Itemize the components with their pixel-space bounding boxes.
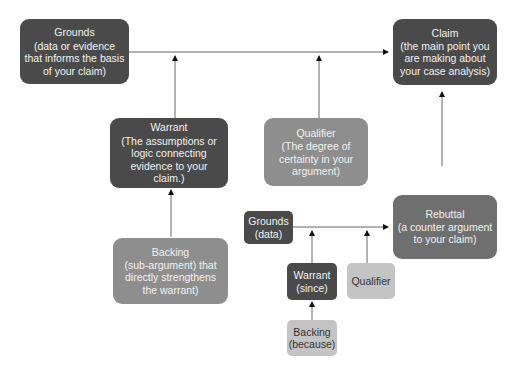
claim-node: Claim (the main point you are making abo… xyxy=(393,19,497,85)
claim-text: (the main point you are making about you… xyxy=(397,40,493,78)
sub-backing-title: Backing xyxy=(293,326,330,339)
qualifier-title: Qualifier xyxy=(296,127,335,140)
backing-node: Backing (sub-argument) that directly str… xyxy=(113,238,228,304)
rebuttal-text: (a counter argument to your claim) xyxy=(397,221,493,246)
sub-grounds-text: (data) xyxy=(255,228,282,241)
qualifier-node: Qualifier (The degree of certainty in yo… xyxy=(264,118,368,186)
rebuttal-node: Rebuttal (a counter argument to your cla… xyxy=(393,195,497,259)
sub-warrant-text: (since) xyxy=(296,282,328,295)
warrant-text: (The assumptions or logic connecting evi… xyxy=(114,135,224,185)
sub-warrant-node: Warrant (since) xyxy=(287,263,337,300)
sub-warrant-title: Warrant xyxy=(294,269,331,282)
qualifier-text: (The degree of certainty in your argumen… xyxy=(268,140,364,178)
grounds-node: Grounds (data or evidence that informs t… xyxy=(20,19,129,84)
grounds-text: (data or evidence that informs the basis… xyxy=(24,40,125,78)
sub-backing-node: Backing (because) xyxy=(287,320,337,356)
sub-backing-text: (because) xyxy=(289,338,336,351)
grounds-title: Grounds xyxy=(54,26,94,39)
backing-title: Backing xyxy=(152,246,189,259)
rebuttal-title: Rebuttal xyxy=(425,208,464,221)
warrant-node: Warrant (The assumptions or logic connec… xyxy=(110,118,228,188)
sub-grounds-node: Grounds (data) xyxy=(244,211,293,244)
warrant-title: Warrant xyxy=(151,121,188,134)
backing-text: (sub-argument) that directly strengthens… xyxy=(117,259,224,297)
sub-qualifier-title: Qualifier xyxy=(351,275,390,288)
sub-grounds-title: Grounds xyxy=(248,215,288,228)
sub-qualifier-node: Qualifier xyxy=(347,263,395,299)
claim-title: Claim xyxy=(432,27,459,40)
